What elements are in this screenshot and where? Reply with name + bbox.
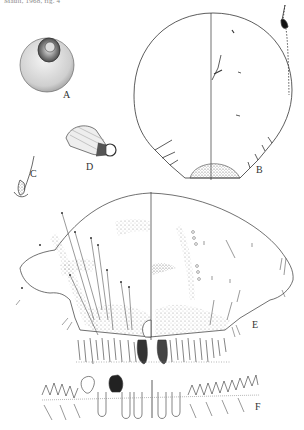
figure-plate	[0, 0, 304, 430]
label-c: C	[30, 168, 37, 179]
panel-e-margin-lobes	[76, 338, 230, 364]
panel-a-scale-cover	[20, 38, 74, 92]
label-b: B	[256, 164, 263, 175]
panel-e-pygidium	[16, 192, 293, 340]
label-d: D	[86, 161, 93, 172]
label-f: F	[255, 401, 261, 412]
panel-d-gland	[66, 126, 116, 156]
label-e: E	[252, 319, 258, 330]
panel-b-whole-body	[134, 5, 292, 180]
label-a: A	[63, 89, 70, 100]
panel-f-pygidial-margin	[42, 375, 260, 420]
